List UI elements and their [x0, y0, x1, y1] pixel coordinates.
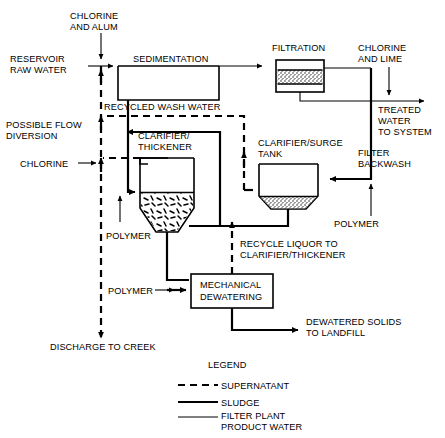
recycled-wash-water-label: RECYCLED WASH WATER — [104, 102, 221, 112]
polymer-surge-label: POLYMER — [334, 219, 379, 229]
dewatered-solids-label-line2: TO LANDFILL — [306, 328, 365, 338]
mechanical-dewatering-label-line2: DEWATERING — [200, 292, 262, 302]
dewatered-solids-label-line1: DEWATERED SOLIDS — [306, 317, 402, 327]
legend-title: LEGEND — [208, 360, 247, 370]
clarifier-thickener-label-line2: THICKENER — [138, 142, 192, 152]
treated-water-label-line2: WATER — [378, 116, 411, 126]
chlorine-lime-label-line2: AND LIME — [358, 54, 402, 64]
legend-label-product-water-line2: PRODUCT WATER — [221, 422, 303, 432]
process-flow-diagram: CHLORINE AND ALUM RESERVOIR RAW WATER SE… — [0, 0, 445, 438]
sedimentation-label: SEDIMENTATION — [133, 54, 208, 64]
chlorine-label: CHLORINE — [20, 159, 68, 169]
recycle-liquor-label-line1: RECYCLE LIQUOR TO — [240, 239, 338, 249]
reservoir-label-line1: RESERVOIR — [10, 54, 65, 64]
chlorine-alum-label-line1: CHLORINE — [70, 11, 118, 21]
filter-backwash-label-line2: BACKWASH — [358, 159, 411, 169]
polymer-clarifier-label: POLYMER — [106, 231, 151, 241]
legend-label-product-water-line1: FILTER PLANT — [221, 411, 286, 421]
legend-label-supernatant: SUPERNATANT — [221, 381, 289, 391]
surge-tank-label-line1: CLARIFIER/SURGE — [258, 138, 343, 148]
filter-backwash-label-line1: FILTER — [358, 148, 390, 158]
filtration-label: FILTRATION — [272, 43, 325, 53]
treated-water-label-line3: TO SYSTEM — [378, 127, 432, 137]
chlorine-lime-label-line1: CHLORINE — [358, 43, 406, 53]
surge-tank-label-line2: TANK — [258, 149, 283, 159]
recycle-liquor-label-line2: CLARIFIER/THICKENER — [240, 250, 346, 260]
possible-flow-diversion-label-line2: DIVERSION — [6, 131, 57, 141]
mechanical-dewatering-label-line1: MECHANICAL — [200, 280, 261, 290]
legend-label-sludge: SLUDGE — [221, 398, 259, 408]
possible-flow-diversion-label-line1: POSSIBLE FLOW — [6, 120, 82, 130]
reservoir-label-line2: RAW WATER — [10, 65, 67, 75]
chlorine-alum-label-line2: AND ALUM — [70, 22, 118, 32]
polymer-dewatering-label: POLYMER — [108, 286, 153, 296]
discharge-to-creek-label: DISCHARGE TO CREEK — [50, 342, 156, 352]
treated-water-label-line1: TREATED — [378, 105, 421, 115]
